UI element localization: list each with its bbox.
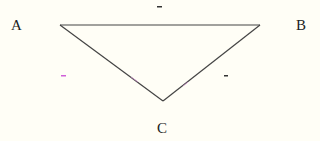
vertex-label-a: A (11, 17, 22, 33)
tick-mark-left (61, 75, 66, 77)
vertex-label-c: C (157, 120, 167, 136)
triangle-diagram: A B C (0, 0, 320, 141)
edge-bc (163, 25, 260, 101)
tick-mark-top (157, 6, 162, 8)
edge-ac-highlight (131, 77, 138, 82)
tick-mark-right (224, 75, 228, 77)
edge-ac (60, 25, 163, 101)
vertex-label-b: B (296, 17, 306, 33)
